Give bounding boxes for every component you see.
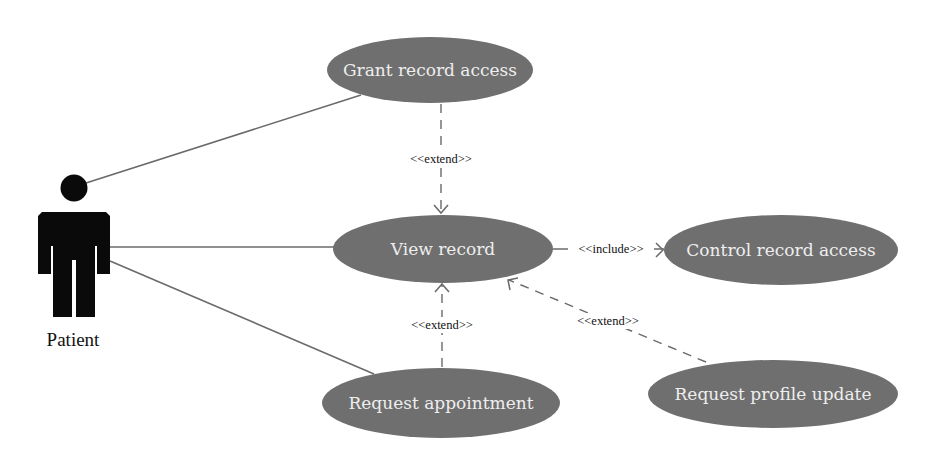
dependency-view-control: <<include>> xyxy=(553,240,664,257)
use-case-request-appointment[interactable]: Request appointment xyxy=(322,368,560,438)
extend-label-grant: <<extend>> xyxy=(410,152,472,166)
use-case-label: Request profile update xyxy=(675,384,872,404)
dependency-profile-view: <<extend>> xyxy=(508,278,706,362)
dependency-appointment-view: <<extend>> xyxy=(402,284,482,367)
actor-patient[interactable]: Patient xyxy=(38,175,110,351)
association-patient-appointment xyxy=(110,261,374,374)
use-case-diagram: <<extend>> <<extend>> <<include>> <<exte… xyxy=(0,0,950,456)
use-case-grant-record-access[interactable]: Grant record access xyxy=(327,37,533,103)
include-label: <<include>> xyxy=(579,242,644,256)
actor-head-icon xyxy=(61,175,88,202)
actor-body-icon xyxy=(38,212,110,317)
use-case-request-profile-update[interactable]: Request profile update xyxy=(648,360,898,428)
actor-label: Patient xyxy=(47,329,100,350)
use-case-view-record[interactable]: View record xyxy=(333,215,553,283)
use-case-label: Request appointment xyxy=(348,393,533,413)
use-case-control-record-access[interactable]: Control record access xyxy=(664,215,898,285)
use-case-label: Grant record access xyxy=(343,60,517,80)
extend-label-appointment: <<extend>> xyxy=(411,318,473,332)
association-patient-grant xyxy=(86,95,361,183)
dependency-grant-view: <<extend>> xyxy=(401,104,481,213)
use-case-label: Control record access xyxy=(686,240,875,260)
use-case-label: View record xyxy=(390,239,496,259)
open-arrowhead-icon xyxy=(508,278,518,290)
extend-label-profile: <<extend>> xyxy=(577,314,639,328)
open-arrowhead-icon xyxy=(656,243,663,257)
